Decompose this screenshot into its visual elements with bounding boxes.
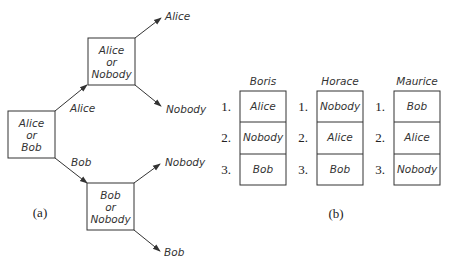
column-maurice: Maurice 1. 2. 3. Bob Alice Nobody — [375, 75, 440, 185]
rank-label: 3. — [375, 162, 385, 177]
root-node: Alice or Bob — [8, 111, 55, 158]
preference-item: Alice — [326, 131, 352, 143]
preference-item: Alice — [403, 131, 429, 143]
upper-node-line-3: Nobody — [91, 68, 132, 80]
column-horace: Horace 1. 2. 3. Nobody Alice Bob — [298, 75, 363, 185]
lower-node-line-2: or — [105, 201, 116, 213]
preference-lists: Boris 1. 2. 3. Alice Nobody Bob Horace 1… — [221, 75, 440, 221]
preference-item: Nobody — [320, 100, 361, 112]
preference-item: Nobody — [397, 163, 438, 175]
rank-label: 1. — [298, 99, 308, 114]
upper-node: Alice or Nobody — [88, 38, 135, 85]
preference-item: Bob — [330, 163, 351, 175]
root-node-line-1: Alice — [18, 117, 44, 129]
edge-lower-to-bob-arrow — [134, 230, 160, 251]
rank-label: 2. — [375, 130, 385, 145]
preference-item: Alice — [249, 100, 275, 112]
leaf-lower-top: Nobody — [165, 156, 206, 168]
preference-item: Bob — [407, 100, 428, 112]
edge-upper-to-alice-arrow — [135, 18, 161, 38]
leaf-lower-bottom: Bob — [164, 246, 185, 258]
leaf-upper-bottom: Nobody — [166, 103, 207, 115]
column-header-boris: Boris — [250, 75, 277, 87]
edge-label-alice: Alice — [69, 102, 95, 114]
rank-label: 1. — [221, 99, 231, 114]
rank-label: 1. — [375, 99, 385, 114]
edge-label-bob: Bob — [71, 156, 92, 168]
root-node-line-3: Bob — [21, 141, 42, 153]
lower-node: Bob or Nobody — [87, 183, 134, 230]
column-header-horace: Horace — [321, 75, 358, 87]
leaf-upper-top: Alice — [164, 10, 190, 22]
column-header-maurice: Maurice — [396, 75, 438, 87]
rank-label: 3. — [298, 162, 308, 177]
decision-tree: Alice or Bob Alice Bob Alice or Nobody A… — [8, 10, 207, 258]
upper-node-line-2: or — [106, 56, 117, 68]
lower-node-line-1: Bob — [100, 189, 121, 201]
rank-label: 3. — [221, 162, 231, 177]
caption-a: (a) — [33, 205, 47, 220]
diagram-canvas: Alice or Bob Alice Bob Alice or Nobody A… — [0, 0, 449, 269]
root-node-line-2: or — [26, 129, 37, 141]
column-boris: Boris 1. 2. 3. Alice Nobody Bob — [221, 75, 286, 185]
preference-item: Nobody — [243, 131, 284, 143]
lower-node-line-3: Nobody — [90, 213, 131, 225]
edge-lower-to-nobody-arrow — [134, 164, 160, 183]
upper-node-line-1: Alice — [98, 44, 124, 56]
preference-item: Bob — [253, 163, 274, 175]
edge-upper-to-nobody-arrow — [135, 85, 161, 106]
rank-label: 2. — [298, 130, 308, 145]
rank-label: 2. — [221, 130, 231, 145]
caption-b: (b) — [328, 206, 343, 221]
